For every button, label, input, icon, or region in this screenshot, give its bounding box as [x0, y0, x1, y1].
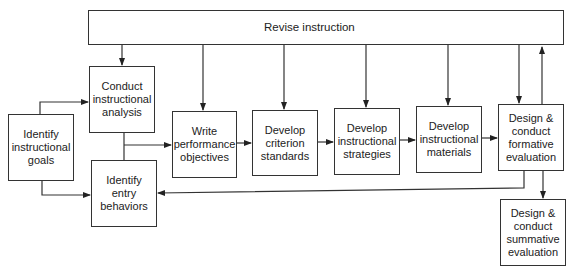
- node-label: Design & conduct summative evaluation: [506, 207, 559, 259]
- node-formative-evaluation: Design & conduct formative evaluation: [498, 104, 564, 171]
- node-label: Revise instruction: [264, 21, 355, 33]
- node-entry-behaviors: Identify entry behaviors: [91, 160, 157, 227]
- node-summative-evaluation: Design & conduct summative evaluation: [500, 199, 566, 266]
- node-label: Develop instructional materials: [420, 120, 479, 159]
- node-performance-objectives: Write performance objectives: [172, 111, 237, 178]
- node-label: Write performance objectives: [174, 125, 236, 164]
- node-label: Conduct instructional analysis: [93, 80, 152, 119]
- node-label: Develop criterion standards: [261, 124, 309, 163]
- node-instructional-strategies: Develop instructional strategies: [334, 108, 400, 175]
- node-label: Identify instructional goals: [12, 128, 71, 167]
- node-instructional-materials: Develop instructional materials: [416, 106, 482, 173]
- node-label: Design & conduct formative evaluation: [506, 112, 556, 164]
- node-label: Develop instructional strategies: [338, 122, 397, 161]
- node-revise-instruction: Revise instruction: [88, 10, 564, 45]
- node-identify-goals: Identify instructional goals: [8, 114, 74, 181]
- node-conduct-analysis: Conduct instructional analysis: [89, 66, 155, 133]
- node-label: Identify entry behaviors: [100, 174, 148, 213]
- node-criterion-standards: Develop criterion standards: [252, 110, 318, 176]
